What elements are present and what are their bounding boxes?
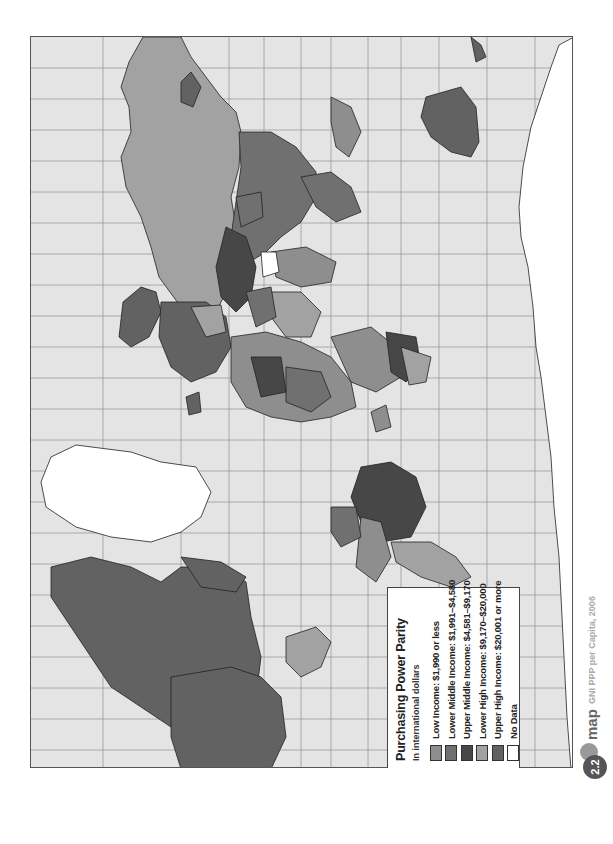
legend-item-upper-high-income: Upper High Income: $20,001 or more <box>490 596 506 761</box>
legend-label: Lower Middle Income: $1,991–$4,580 <box>446 580 457 739</box>
page-footer: 2.2 map GNI PPP per Capita, 2006 <box>575 540 613 844</box>
swatch-lower-high-income <box>476 745 488 761</box>
australia <box>421 87 479 157</box>
india <box>271 247 336 287</box>
section-label: map <box>583 709 600 740</box>
legend-label: Lower High Income: $9,170–$20,000 <box>477 583 488 739</box>
legend-label: Low Income: $1,990 or less <box>430 621 441 739</box>
legend-label: No Data <box>508 705 519 740</box>
swatch-no-data <box>507 745 519 761</box>
mexico <box>286 627 331 677</box>
swatch-upper-middle-income <box>461 745 473 761</box>
legend-title: Purchasing Power Parity <box>394 596 408 761</box>
iran <box>246 287 276 327</box>
usa <box>171 667 286 768</box>
swatch-low-income <box>430 745 442 761</box>
legend-item-lower-high-income: Lower High Income: $9,170–$20,000 <box>475 596 491 761</box>
swatch-lower-middle-income <box>445 745 457 761</box>
antarctica <box>519 37 573 768</box>
legend-item-low-income: Low Income: $1,990 or less <box>428 596 444 761</box>
map-scale: Scale: 1 to 180,000,000 1000 2000 Miles … <box>571 127 573 327</box>
section-badge: 2.2 <box>583 755 607 779</box>
legend-item-upper-middle-income: Upper Middle Income: $4,581–$9,170 <box>459 596 475 761</box>
greenland <box>41 445 211 542</box>
legend-label: Upper Middle Income: $4,581–$9,170 <box>461 581 472 739</box>
saudi-arabia <box>271 292 321 337</box>
legend-subtitle: In international dollars <box>411 596 421 761</box>
andes-west <box>391 542 471 587</box>
scale-bar <box>571 127 573 327</box>
swatch-upper-high-income <box>492 745 504 761</box>
indonesia <box>331 97 361 157</box>
new-zealand <box>471 37 486 62</box>
afghanistan <box>261 252 279 277</box>
colombia-venezuela <box>331 507 361 547</box>
scandinavia <box>119 287 161 347</box>
legend-label: Upper High Income: $20,001 or more <box>492 581 503 739</box>
legend-item-lower-middle-income: Lower Middle Income: $1,991–$4,580 <box>444 596 460 761</box>
legend-item-no-data: No Data <box>506 596 522 761</box>
legend: Purchasing Power Parity In international… <box>387 587 520 768</box>
uk <box>186 392 201 415</box>
map-caption: GNI PPP per Capita, 2006 <box>587 596 597 704</box>
